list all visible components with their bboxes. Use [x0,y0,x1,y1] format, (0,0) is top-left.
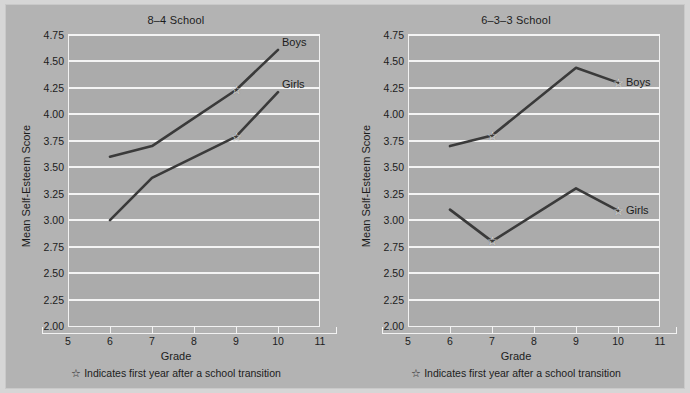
footnote: ☆Indicates first year after a school tra… [346,367,686,380]
x-axis-title: Grade [6,350,346,362]
series-label-girls: Girls [626,204,649,216]
footnote-text: Indicates first year after a school tran… [84,367,281,379]
series-lines [6,5,346,390]
star-icon: ☆ [411,367,421,379]
series-label-boys: Boys [626,76,650,88]
figure-root: 8–4 School 2.002.252.502.753.003.253.503… [0,0,690,393]
x-axis-title: Grade [346,350,686,362]
footnote-text: Indicates first year after a school tran… [424,367,621,379]
panel-6-3-3-school: 6–3–3 School 2.002.252.502.753.003.253.5… [346,5,686,390]
series-line-boys [110,50,278,157]
footnote: ☆Indicates first year after a school tra… [6,367,346,380]
series-line-girls [110,92,278,220]
series-line-girls [450,188,618,241]
star-icon: ☆ [71,367,81,379]
series-lines [346,5,686,390]
panel-8-4-school: 8–4 School 2.002.252.502.753.003.253.503… [6,5,346,390]
series-label-girls: Girls [282,78,305,90]
figure-frame: 8–4 School 2.002.252.502.753.003.253.503… [5,4,685,389]
series-label-boys: Boys [282,36,306,48]
y-axis-title: Mean Self-Esteem Score [360,106,372,266]
series-line-boys [450,68,618,146]
y-axis-title: Mean Self-Esteem Score [20,106,32,266]
